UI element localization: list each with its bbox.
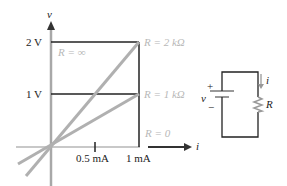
- current-label: i: [266, 74, 269, 86]
- x-tick-1ma: 1 mA: [126, 152, 151, 164]
- y-axis-label: v: [47, 8, 52, 20]
- x-axis-arrowhead-icon: [184, 143, 192, 151]
- label-r-0: R = 0: [144, 127, 171, 139]
- resistor-icon: [254, 97, 262, 112]
- circuit-wire-bottom: [222, 101, 258, 137]
- label-r-inf: R = ∞: [57, 46, 86, 58]
- x-axis-label: i: [196, 140, 199, 152]
- y-tick-2v: 2 V: [26, 36, 42, 48]
- current-arrow-icon: [258, 84, 264, 89]
- minus-sign: −: [208, 101, 214, 113]
- circuit-wire: [222, 72, 258, 97]
- iv-diagram: v 2 V 1 V 0.5 mA 1 mA i R = ∞ R = 2 kΩ R…: [0, 0, 287, 186]
- circuit: + − v i R: [201, 72, 273, 137]
- label-r-2k: R = 2 kΩ: [143, 36, 185, 48]
- source-label: v: [201, 92, 206, 104]
- x-tick-0.5ma: 0.5 mA: [76, 152, 109, 164]
- y-axis-arrowhead-icon: [47, 21, 55, 30]
- plus-sign: +: [207, 80, 213, 92]
- resistor-label: R: [265, 98, 273, 110]
- label-r-1k: R = 1 kΩ: [143, 88, 185, 100]
- y-tick-1v: 1 V: [26, 88, 42, 100]
